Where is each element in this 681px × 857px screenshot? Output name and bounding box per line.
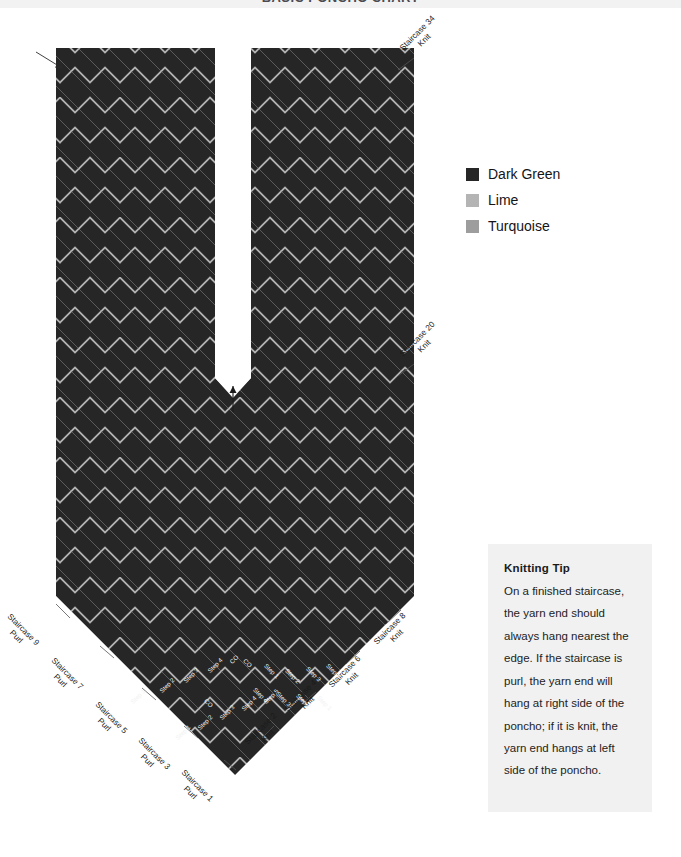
- legend-swatch-dark-green: [466, 168, 479, 181]
- knitting-tip-body: On a finished staircase, the yarn end sh…: [504, 580, 636, 782]
- legend-swatch-lime: [466, 194, 479, 207]
- legend-swatch-turquoise: [466, 220, 479, 233]
- legend-item: Turquoise: [466, 215, 560, 237]
- legend-label-turquoise: Turquoise: [488, 219, 550, 233]
- legend: Dark Green Lime Turquoise: [466, 163, 560, 241]
- neck-opening: [215, 40, 251, 398]
- knitting-tip-box: Knitting Tip On a finished staircase, th…: [488, 544, 652, 812]
- legend-label-dark-green: Dark Green: [488, 167, 560, 181]
- poncho-chart-page: BASIC PONCHO CHART: [0, 0, 681, 857]
- knitting-tip-title: Knitting Tip: [504, 562, 636, 574]
- legend-item: Lime: [466, 189, 560, 211]
- poncho-svg: [0, 0, 470, 830]
- legend-label-lime: Lime: [488, 193, 518, 207]
- poncho-diagram: [0, 0, 470, 830]
- legend-item: Dark Green: [466, 163, 560, 185]
